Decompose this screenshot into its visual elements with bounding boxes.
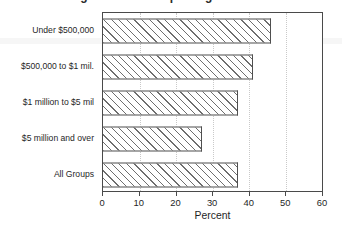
chart-title-clipped: Percentage of Farms Reporting <box>28 0 268 3</box>
xtick-label-30: 30 <box>207 197 217 208</box>
category-label-under-500000: Under $500,000 <box>0 25 94 35</box>
gridline-50 <box>286 13 288 191</box>
category-label-1mil-to-5mil: $1 million to $5 mil <box>0 97 94 107</box>
bar-under-500000 <box>103 19 271 44</box>
x-axis-title: Percent <box>102 210 323 221</box>
bar-500000-to-1mil <box>103 55 253 80</box>
xtick-mark-20 <box>176 192 177 196</box>
category-label-all-groups: All Groups <box>0 169 94 179</box>
xtick-mark-50 <box>285 192 286 196</box>
plot-inner <box>103 13 322 191</box>
category-label-500000-to-1mil: $500,000 to $1 mil. <box>0 61 94 71</box>
xtick-label-40: 40 <box>243 197 253 208</box>
xtick-mark-30 <box>212 192 213 196</box>
category-axis-labels: Under $500,000 $500,000 to $1 mil. $1 mi… <box>0 12 98 192</box>
xtick-label-50: 50 <box>280 197 290 208</box>
bar-chart-figure: Percentage of Farms Reporting Under $500… <box>0 0 342 233</box>
xtick-label-10: 10 <box>134 197 144 208</box>
xtick-mark-0 <box>102 192 103 196</box>
xtick-mark-40 <box>249 192 250 196</box>
bar-5mil-and-over <box>103 127 202 152</box>
category-label-5mil-and-over: $5 million and over <box>0 133 94 143</box>
xtick-label-20: 20 <box>170 197 180 208</box>
xtick-mark-10 <box>139 192 140 196</box>
bar-1mil-to-5mil <box>103 91 238 116</box>
xtick-label-0: 0 <box>99 197 104 208</box>
xtick-label-60: 60 <box>317 197 327 208</box>
xtick-mark-60 <box>322 192 323 196</box>
plot-area <box>102 12 323 192</box>
bar-all-groups <box>103 163 238 188</box>
